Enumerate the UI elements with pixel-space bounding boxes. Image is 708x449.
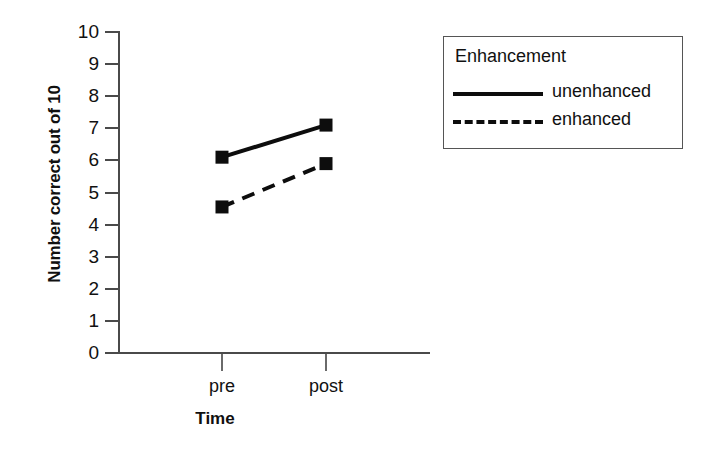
y-tick-mark — [105, 320, 119, 322]
chart-figure: Number correct out of 10 109876543210 pr… — [0, 0, 708, 449]
legend-label-unenhanced: unenhanced — [552, 81, 651, 102]
y-tick-label: 9 — [63, 54, 99, 73]
y-tick-mark — [105, 159, 119, 161]
y-tick-mark — [105, 224, 119, 226]
y-tick-mark — [105, 288, 119, 290]
legend-swatch-solid-line — [453, 92, 543, 96]
y-tick-mark — [105, 95, 119, 97]
y-tick-label: 6 — [63, 150, 99, 169]
x-tick-label: pre — [177, 376, 267, 397]
y-tick-mark — [105, 192, 119, 194]
data-point-marker — [216, 200, 229, 213]
y-tick-label: 3 — [63, 247, 99, 266]
x-tick-label: post — [281, 376, 371, 397]
legend-box: Enhancement unenhanced enhanced — [443, 36, 683, 149]
series-line-enhanced — [222, 164, 326, 207]
x-tick-mark — [221, 354, 223, 371]
y-tick-label: 1 — [63, 311, 99, 330]
y-tick-label: 2 — [63, 279, 99, 298]
y-tick-label: 0 — [63, 343, 99, 362]
data-point-marker — [216, 151, 229, 164]
y-tick-label: 4 — [63, 215, 99, 234]
legend-title: Enhancement — [455, 46, 566, 67]
x-tick-mark — [325, 354, 327, 371]
y-tick-mark — [105, 127, 119, 129]
y-tick-mark — [105, 352, 119, 354]
legend-swatch-dashed-line — [453, 120, 543, 124]
x-axis-label: Time — [0, 409, 430, 429]
series-line-unenhanced — [222, 125, 326, 157]
legend-label-enhanced: enhanced — [552, 109, 631, 130]
y-tick-label: 7 — [63, 118, 99, 137]
y-tick-label: 5 — [63, 183, 99, 202]
y-tick-label: 10 — [63, 22, 99, 41]
y-tick-mark — [105, 256, 119, 258]
y-tick-mark — [105, 31, 119, 33]
y-tick-mark — [105, 63, 119, 65]
y-tick-label: 8 — [63, 86, 99, 105]
data-point-marker — [320, 157, 333, 170]
x-axis-line — [118, 352, 430, 354]
data-point-marker — [320, 119, 333, 132]
